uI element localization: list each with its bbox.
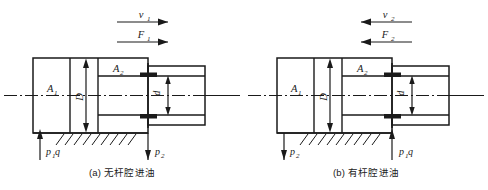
force-sub: 1	[147, 35, 151, 43]
port-right-sub: 2	[161, 152, 165, 160]
port-left-label: p	[289, 146, 295, 157]
ground-hatching	[300, 134, 380, 145]
force-label: F	[137, 29, 145, 40]
velocity-sub: 1	[147, 15, 151, 23]
bore-label: D	[318, 93, 329, 102]
area-rod-sub: 2	[364, 69, 368, 77]
area-cap-label: A	[290, 83, 298, 94]
area-cap-label: A	[46, 83, 54, 94]
panel-a-drawing: v 1 F 1 A 1 A 2 D d p 1 q p 2	[0, 0, 244, 190]
rod-dimension	[409, 76, 414, 116]
port-left-extra: q	[55, 146, 60, 157]
seal-lower	[140, 114, 157, 128]
rod-dimension	[165, 76, 170, 116]
force-label: F	[381, 29, 389, 40]
force-sub: 2	[391, 35, 395, 43]
port-right	[145, 133, 151, 160]
area-rod-label: A	[112, 63, 120, 74]
port-left-label: p	[45, 146, 51, 157]
panel-a: v 1 F 1 A 1 A 2 D d p 1 q p 2 (a) 无杆腔进油	[0, 0, 244, 190]
seal-upper	[384, 63, 401, 77]
port-right-extra: q	[408, 146, 413, 157]
velocity-label: v	[139, 9, 144, 20]
ground-hatching	[56, 134, 136, 145]
seal-upper	[140, 63, 157, 77]
area-cap-sub: 1	[54, 89, 58, 97]
port-left	[281, 133, 287, 160]
rod-label: d	[152, 90, 162, 95]
panel-a-caption: (a) 无杆腔进油	[0, 165, 244, 179]
velocity-label: v	[383, 9, 388, 20]
panel-b-drawing: v 2 F 2 A 1 A 2 D d p 2 p 1 q	[244, 0, 488, 190]
area-rod-sub: 2	[120, 69, 124, 77]
area-rod-label: A	[356, 63, 364, 74]
bore-label: D	[74, 93, 85, 102]
port-right-label: p	[154, 146, 160, 157]
hydraulic-cylinder-figure: v 1 F 1 A 1 A 2 D d p 1 q p 2 (a) 无杆腔进油	[0, 0, 488, 190]
seal-lower	[384, 114, 401, 128]
rod-label: d	[396, 90, 406, 95]
panel-b: v 2 F 2 A 1 A 2 D d p 2 p 1 q (b) 有杆腔进油	[244, 0, 488, 190]
panel-b-caption: (b) 有杆腔进油	[244, 165, 488, 179]
port-left-sub: 2	[296, 152, 300, 160]
port-right-label: p	[398, 146, 404, 157]
velocity-sub: 2	[391, 15, 395, 23]
area-cap-sub: 1	[298, 89, 302, 97]
